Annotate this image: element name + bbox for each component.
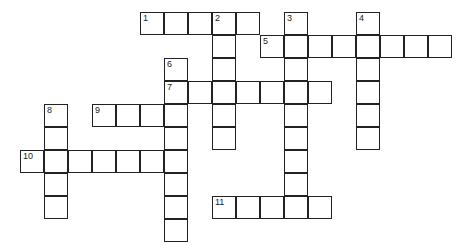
crossword-cell[interactable] [164,173,188,196]
crossword-cell[interactable] [284,81,308,104]
clue-number: 5 [263,37,268,46]
crossword-cell[interactable]: 6 [164,58,188,81]
crossword-cell[interactable] [308,196,332,219]
clue-number: 7 [167,83,172,92]
crossword-cell[interactable] [164,150,188,173]
crossword-cell[interactable] [284,150,308,173]
crossword-cell[interactable] [308,35,332,58]
crossword-cell[interactable] [260,196,284,219]
crossword-cell[interactable] [236,81,260,104]
crossword-cell[interactable] [212,81,236,104]
crossword-cell[interactable] [284,196,308,219]
crossword-cell[interactable]: 10 [20,150,44,173]
crossword-cell[interactable] [356,104,380,127]
clue-number: 4 [359,14,364,23]
crossword-cell[interactable] [140,150,164,173]
crossword-cell[interactable] [284,58,308,81]
crossword-cell[interactable]: 2 [212,12,236,35]
crossword-cell[interactable] [188,81,212,104]
crossword-cell[interactable] [44,150,68,173]
crossword-cell[interactable]: 5 [260,35,284,58]
crossword-cell[interactable] [236,12,260,35]
crossword-cell[interactable] [92,150,116,173]
crossword-cell[interactable] [356,58,380,81]
crossword-cell[interactable] [212,58,236,81]
crossword-cell[interactable] [44,196,68,219]
crossword-cell[interactable] [356,35,380,58]
crossword-cell[interactable] [308,81,332,104]
crossword-cell[interactable]: 7 [164,81,188,104]
crossword-cell[interactable] [164,196,188,219]
clue-number: 1 [143,14,148,23]
crossword-cell[interactable] [284,173,308,196]
crossword-cell[interactable] [284,127,308,150]
crossword-cell[interactable]: 1 [140,12,164,35]
crossword-cell[interactable] [68,150,92,173]
crossword-cell[interactable] [332,35,356,58]
crossword-cell[interactable] [164,219,188,242]
crossword-cell[interactable] [116,104,140,127]
crossword-cell[interactable] [140,104,164,127]
crossword-cell[interactable] [260,81,284,104]
crossword-cell[interactable] [356,127,380,150]
crossword-cell[interactable] [284,35,308,58]
crossword-cell[interactable] [212,35,236,58]
crossword-cell[interactable] [44,127,68,150]
crossword-cell[interactable] [44,173,68,196]
clue-number: 6 [167,60,172,69]
crossword-cell[interactable] [212,104,236,127]
crossword-cell[interactable] [356,81,380,104]
crossword-cell[interactable] [212,127,236,150]
crossword-cell[interactable]: 4 [356,12,380,35]
crossword-grid: 1234567891011 [0,0,463,245]
crossword-cell[interactable]: 8 [44,104,68,127]
crossword-cell[interactable] [164,127,188,150]
crossword-cell[interactable] [380,35,404,58]
clue-number: 2 [215,14,220,23]
clue-number: 8 [47,106,52,115]
crossword-cell[interactable] [164,104,188,127]
crossword-cell[interactable] [236,196,260,219]
clue-number: 3 [287,14,292,23]
crossword-cell[interactable] [428,35,452,58]
crossword-cell[interactable]: 9 [92,104,116,127]
crossword-cell[interactable] [404,35,428,58]
clue-number: 9 [95,106,100,115]
crossword-cell[interactable] [116,150,140,173]
crossword-cell[interactable] [164,12,188,35]
crossword-cell[interactable] [188,12,212,35]
crossword-cell[interactable] [284,104,308,127]
clue-number: 10 [23,152,33,161]
crossword-cell[interactable]: 3 [284,12,308,35]
clue-number: 11 [215,198,224,207]
crossword-cell[interactable]: 11 [212,196,236,219]
